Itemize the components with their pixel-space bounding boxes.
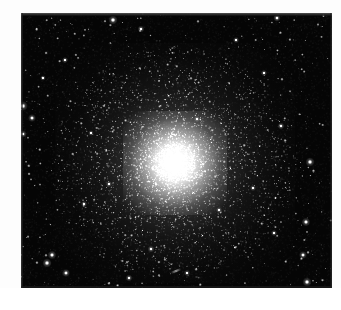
- page-canvas: [0, 0, 341, 310]
- page-caption: [0, 0, 1, 1]
- globular-cluster-plate: [21, 13, 332, 288]
- star-field-canvas: [21, 13, 332, 288]
- page-bottom-margin: [0, 288, 341, 310]
